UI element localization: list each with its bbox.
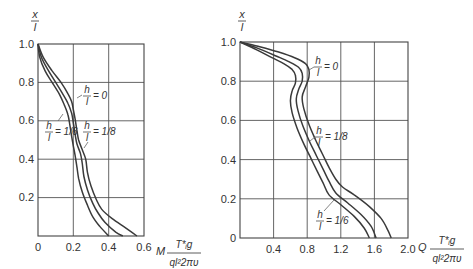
left-x-axis-label: M T*ᵢg ql²2πυ bbox=[156, 239, 201, 268]
left-y-axis-label: x l bbox=[31, 8, 39, 33]
right-x-tick: 1.2 bbox=[333, 243, 348, 255]
right-y-axis-label: x l bbox=[238, 8, 246, 33]
svg-text:= 0: = 0 bbox=[324, 61, 339, 72]
left-y-tick: 0.2 bbox=[19, 191, 34, 203]
svg-text:h: h bbox=[316, 125, 322, 136]
right-x-tick: 0.4 bbox=[266, 243, 281, 255]
svg-text:ql²2πυ: ql²2πυ bbox=[170, 257, 199, 268]
right-y-tick: 0.2 bbox=[221, 193, 236, 205]
svg-text:T*ᵢg: T*ᵢg bbox=[176, 239, 193, 250]
svg-text:h: h bbox=[84, 84, 90, 95]
svg-text:l: l bbox=[319, 221, 322, 232]
right-x-ticks: 0.4 0.8 1.2 1.6 2.0 bbox=[266, 243, 416, 255]
right-y-tick: 1.0 bbox=[221, 36, 236, 48]
svg-text:= 1/6: = 1/6 bbox=[55, 126, 78, 137]
curve-h-l-1-8 bbox=[38, 44, 123, 236]
right-curves bbox=[240, 42, 391, 238]
right-y-tick: 0.8 bbox=[221, 75, 236, 87]
svg-text:l: l bbox=[86, 96, 89, 107]
left-x-tick: 0 bbox=[35, 241, 41, 253]
left-x-tick: 0.4 bbox=[101, 241, 116, 253]
right-chart: 1.0 0.8 0.6 0.4 0.2 0 0.4 0.8 1.2 1.6 2.… bbox=[221, 8, 464, 264]
left-y-tick: 0.8 bbox=[19, 76, 34, 88]
right-y-ticks: 1.0 0.8 0.6 0.4 0.2 0 bbox=[221, 36, 236, 244]
left-y-tick: 0.6 bbox=[19, 114, 34, 126]
left-y-ticks: 1.0 0.8 0.6 0.4 0.2 bbox=[19, 38, 34, 203]
svg-text:= 0: = 0 bbox=[93, 90, 108, 101]
left-y-tick: 0.4 bbox=[19, 153, 34, 165]
svg-text:h: h bbox=[46, 120, 52, 131]
left-x-ticks: 0 0.2 0.4 0.6 bbox=[35, 241, 152, 253]
right-annotation-h18: h l = 1/8 bbox=[310, 125, 348, 148]
svg-text:l: l bbox=[86, 132, 89, 143]
right-x-axis-label: Q T*ᵢg ql²2πυ bbox=[418, 235, 464, 264]
svg-text:T*ᵢg: T*ᵢg bbox=[439, 235, 456, 246]
svg-text:Q: Q bbox=[418, 241, 427, 253]
svg-text:x: x bbox=[31, 8, 38, 20]
right-annotation-h16: h l = 1/6 bbox=[316, 200, 349, 232]
svg-text:l: l bbox=[34, 21, 37, 33]
curve-h-l-1-8 bbox=[240, 42, 376, 238]
right-x-tick: 0.8 bbox=[300, 243, 315, 255]
right-y-tick: 0.4 bbox=[221, 154, 236, 166]
right-annotation-h0: h l = 0 bbox=[309, 55, 339, 78]
left-x-tick: 0.2 bbox=[66, 241, 81, 253]
svg-text:= 1/8: = 1/8 bbox=[325, 131, 348, 142]
svg-text:h: h bbox=[84, 120, 90, 131]
right-x-tick: 2.0 bbox=[400, 243, 415, 255]
curve-h-l-0 bbox=[240, 42, 391, 238]
svg-text:x: x bbox=[238, 8, 245, 20]
svg-text:ql²2πυ: ql²2πυ bbox=[433, 253, 462, 264]
svg-text:h: h bbox=[317, 209, 323, 220]
left-annotation-h18: h l = 1/8 bbox=[83, 120, 116, 148]
svg-text:h: h bbox=[315, 55, 321, 66]
left-y-tick: 1.0 bbox=[19, 38, 34, 50]
svg-text:l: l bbox=[317, 67, 320, 78]
svg-text:l: l bbox=[241, 21, 244, 33]
svg-text:= 1/6: = 1/6 bbox=[326, 215, 349, 226]
right-y-tick: 0.6 bbox=[221, 114, 236, 126]
left-annotation-h0: h l = 0 bbox=[77, 84, 108, 107]
left-x-tick: 0.6 bbox=[136, 241, 151, 253]
svg-text:l: l bbox=[318, 137, 321, 148]
svg-text:= 1/8: = 1/8 bbox=[93, 126, 116, 137]
right-y-tick: 0 bbox=[230, 232, 236, 244]
right-x-tick: 1.6 bbox=[367, 243, 382, 255]
svg-text:M: M bbox=[156, 245, 166, 257]
curve-h-l-1-6 bbox=[240, 42, 369, 238]
left-chart: 1.0 0.8 0.6 0.4 0.2 0 0.2 0.4 0.6 x l M … bbox=[19, 8, 201, 268]
svg-text:l: l bbox=[48, 132, 51, 143]
figure-canvas: 1.0 0.8 0.6 0.4 0.2 0 0.2 0.4 0.6 x l M … bbox=[0, 0, 473, 269]
